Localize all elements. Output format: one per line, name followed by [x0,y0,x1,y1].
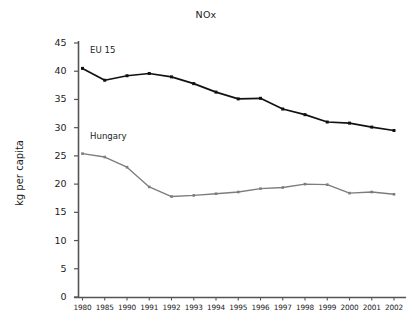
data-point-marker [237,191,240,194]
data-point-marker [103,156,106,159]
data-point-marker [170,75,173,78]
y-tick-label: 20 [45,179,67,189]
y-tick-label: 35 [45,94,67,104]
data-point-marker [192,82,195,85]
data-point-marker [126,166,129,169]
data-point-marker [259,187,262,190]
y-tick-label: 30 [45,123,67,133]
data-point-marker [281,108,284,111]
y-tick-label: 10 [45,236,67,246]
data-point-marker [304,113,307,116]
axis-lines [74,41,406,298]
series-line [83,154,395,197]
data-point-marker [370,126,373,129]
series-layer [81,67,396,198]
data-point-marker [393,193,396,196]
data-point-marker [192,194,195,197]
data-point-marker [81,67,84,70]
y-tick-label: 40 [45,66,67,76]
series-label-hungary: Hungary [90,131,127,141]
y-tick-label: 5 [45,264,67,274]
data-point-marker [148,186,151,189]
data-point-marker [170,195,173,198]
data-point-marker [215,91,218,94]
data-point-marker [326,183,329,186]
data-point-marker [259,97,262,100]
series-hungary [81,152,395,198]
data-point-marker [348,122,351,125]
data-point-marker [215,192,218,195]
data-point-marker [281,186,284,189]
data-point-marker [304,183,307,186]
x-tick-label: 2002 [379,303,409,312]
data-point-marker [370,191,373,194]
y-tick-label: 15 [45,207,67,217]
plot-area [0,0,412,331]
data-point-marker [393,129,396,132]
y-tick-label: 45 [45,38,67,48]
chart-figure: NOx kg per capita 051015202530354045 198… [0,0,412,331]
y-tick-label: 0 [45,292,67,302]
data-point-marker [148,72,151,75]
y-tick-label: 25 [45,151,67,161]
data-point-marker [103,79,106,82]
series-label-eu15: EU 15 [90,45,115,55]
data-point-marker [348,192,351,195]
data-point-marker [126,74,129,77]
series-eu-15 [81,67,396,132]
data-point-marker [326,121,329,124]
data-point-marker [81,152,84,155]
data-point-marker [237,97,240,100]
